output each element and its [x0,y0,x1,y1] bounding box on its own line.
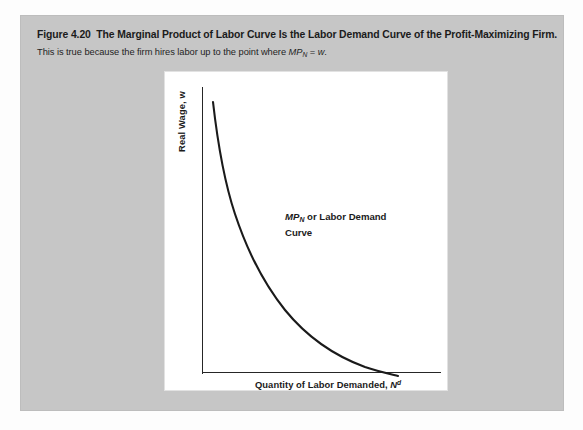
subtitle-period: . [324,47,327,57]
subtitle-mp-symbol: MP [289,47,303,57]
figure-number: Figure 4.20 [37,29,91,40]
figure-title: Figure 4.20 The Marginal Product of Labo… [37,28,549,42]
figure-card: Figure 4.20 The Marginal Product of Labo… [21,16,563,410]
curve-label-mp-symbol: MP [285,211,299,222]
figure-subtitle-text: This is true because the firm hires labo… [37,47,289,57]
plot-panel: Real Wage, w Quantity of Labor Demanded,… [165,72,447,390]
curve-annotation-label: MPN or Labor Demand Curve [285,210,386,239]
subtitle-equals: = [307,47,317,57]
curve-label-line2: Curve [285,227,312,238]
figure-subtitle: This is true because the firm hires labo… [37,46,549,61]
figure-caption: Figure 4.20 The Marginal Product of Labo… [37,28,549,61]
curve-label-rest: or Labor Demand [304,211,386,222]
figure-title-text: The Marginal Product of Labor Curve Is t… [96,29,557,40]
